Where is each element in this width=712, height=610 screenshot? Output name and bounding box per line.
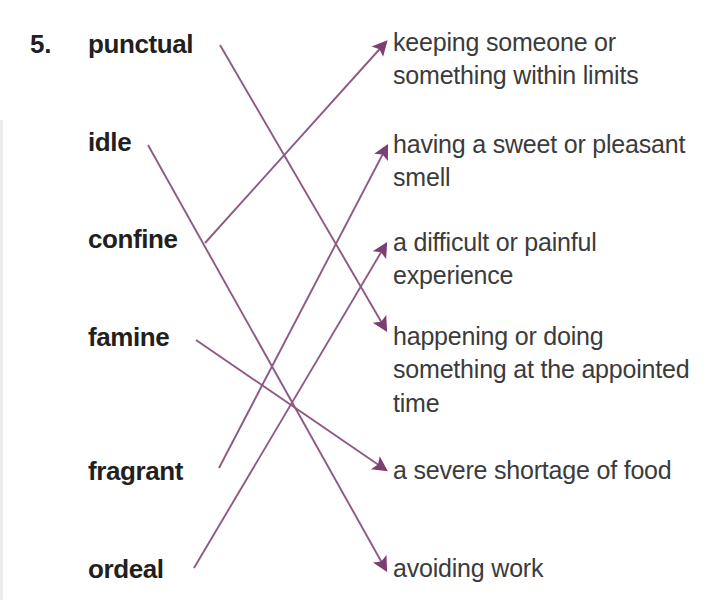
definition-difficult-painful-experience[interactable]: a difficult or painful experience — [393, 226, 703, 293]
word-ordeal[interactable]: ordeal — [88, 554, 164, 585]
conn-famine[interactable] — [196, 340, 386, 470]
word-famine[interactable]: famine — [88, 322, 169, 353]
definition-appointed-time[interactable]: happening or doing something at the appo… — [393, 320, 703, 420]
conn-idle[interactable] — [148, 145, 386, 570]
word-confine[interactable]: confine — [88, 224, 178, 255]
worksheet-page: 5. punctual idle confine famine fragrant… — [0, 0, 712, 610]
word-idle[interactable]: idle — [88, 127, 131, 158]
conn-punctual[interactable] — [220, 45, 386, 330]
cropped-heading-above — [250, 0, 430, 2]
conn-ordeal[interactable] — [194, 244, 386, 568]
connector-group — [148, 42, 387, 570]
definition-sweet-pleasant-smell[interactable]: having a sweet or pleasant smell — [393, 128, 703, 195]
page-edge-shadow — [0, 0, 3, 610]
question-number: 5. — [30, 29, 51, 60]
word-punctual[interactable]: punctual — [88, 29, 193, 60]
definition-avoiding-work[interactable]: avoiding work — [393, 552, 703, 585]
definition-keeping-within-limits[interactable]: keeping someone or something within limi… — [393, 26, 703, 93]
conn-fragrant[interactable] — [219, 146, 387, 468]
conn-confine[interactable] — [205, 42, 386, 243]
word-fragrant[interactable]: fragrant — [88, 456, 183, 487]
definition-severe-shortage-of-food[interactable]: a severe shortage of food — [393, 454, 703, 487]
